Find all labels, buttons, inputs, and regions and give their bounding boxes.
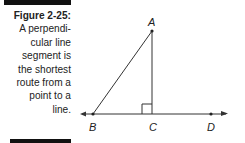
segment-ab — [93, 31, 152, 114]
right-angle-mark — [142, 104, 152, 114]
geometry-diagram: A B C D — [0, 0, 245, 143]
point-b — [91, 112, 94, 115]
arrow-left-icon — [80, 112, 86, 117]
label-a: A — [147, 16, 155, 28]
point-a — [150, 29, 153, 32]
arrow-right-icon — [221, 111, 228, 116]
label-c: C — [149, 121, 157, 133]
label-d: D — [207, 121, 215, 133]
label-b: B — [89, 121, 96, 133]
point-d — [209, 112, 212, 115]
